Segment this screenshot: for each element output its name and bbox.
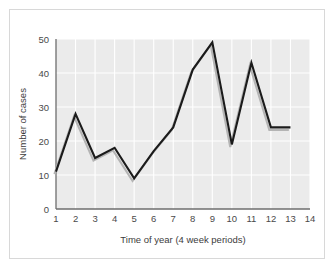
x-tick-label: 2 xyxy=(73,213,78,224)
x-tick-label: 14 xyxy=(305,213,316,224)
y-tick-label: 50 xyxy=(38,34,49,45)
x-tick-label: 9 xyxy=(210,213,215,224)
x-tick-label: 11 xyxy=(246,213,256,224)
y-tick-label: 20 xyxy=(38,136,49,147)
x-tick-label: 6 xyxy=(151,213,156,224)
line-chart: 01020304050 1234567891011121314 Number o… xyxy=(0,0,335,269)
chart-figure: 01020304050 1234567891011121314 Number o… xyxy=(0,0,335,269)
x-tick-labels: 1234567891011121314 xyxy=(53,213,315,224)
y-tick-label: 10 xyxy=(38,170,49,181)
x-tick-label: 3 xyxy=(92,213,97,224)
y-tick-label: 0 xyxy=(44,204,49,215)
x-tick-label: 12 xyxy=(266,213,277,224)
x-tick-label: 7 xyxy=(171,213,176,224)
x-tick-label: 8 xyxy=(190,213,195,224)
y-tick-label: 40 xyxy=(38,68,49,79)
x-tick-label: 4 xyxy=(112,213,117,224)
y-axis-title: Number of cases xyxy=(17,88,28,160)
x-tick-label: 5 xyxy=(132,213,137,224)
y-tick-label: 30 xyxy=(38,102,49,113)
x-tick-label: 13 xyxy=(285,213,296,224)
x-tick-label: 1 xyxy=(53,213,58,224)
x-tick-label: 10 xyxy=(227,213,238,224)
x-axis-title: Time of year (4 week periods) xyxy=(120,234,245,245)
y-tick-labels: 01020304050 xyxy=(38,34,49,215)
plot-area-background xyxy=(56,39,310,209)
